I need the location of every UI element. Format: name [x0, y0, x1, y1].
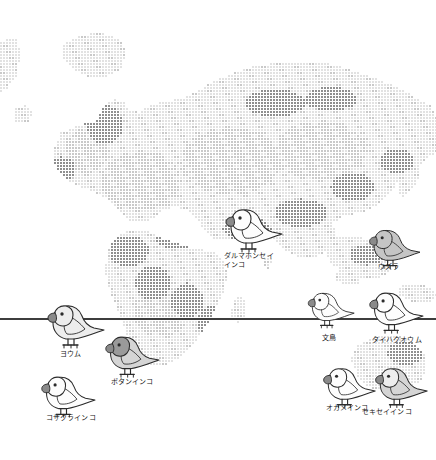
bird-label-taihaku-oumu: タイハクオウム	[372, 336, 422, 344]
bird-label-youmu: ヨウム	[60, 350, 81, 358]
bird-label-line1: ボタンインコ	[111, 378, 154, 386]
bird-illustration-okame-inko	[320, 356, 377, 409]
bird-label-line1: ダルマホンセイ	[224, 252, 274, 261]
bird-label-line1: タイハクオウム	[372, 336, 422, 344]
bird-label-line1: セキセイインコ	[362, 408, 412, 416]
bird-label-sekisei-inko: セキセイインコ	[362, 408, 412, 416]
bird-illustration-bunchou	[305, 282, 356, 330]
bird-label-line1: コザクラインコ	[46, 414, 96, 422]
bird-label-botan-inko: ボタンインコ	[111, 378, 154, 386]
bird-illustration-taihaku-oumu	[366, 280, 425, 335]
bird-illustration-daruma-honsei-inko	[222, 196, 284, 254]
bird-illustration-kozakura-inko	[38, 364, 97, 419]
bird-label-line1: ヨウム	[60, 350, 81, 358]
bird-illustration-youmu	[44, 292, 106, 350]
bird-label-uzura: ウズラ	[378, 263, 399, 271]
bird-label-kozakura-inko: コザクラインコ	[46, 414, 96, 422]
bird-illustration-sekisei-inko	[372, 356, 429, 409]
bird-label-line1: 文鳥	[322, 334, 336, 342]
bird-label-line1: ウズラ	[378, 263, 399, 271]
bird-label-daruma-honsei-inko: ダルマホンセイインコ	[224, 252, 274, 269]
distribution-map-figure: ダルマホンセイインコウズラヨウムボタンインココザクラインコ文鳥タイハクオウムオカ…	[0, 0, 436, 460]
bird-illustration-botan-inko	[102, 324, 161, 379]
bird-label-bunchou: 文鳥	[322, 334, 336, 342]
bird-label-line2: インコ	[224, 261, 274, 270]
